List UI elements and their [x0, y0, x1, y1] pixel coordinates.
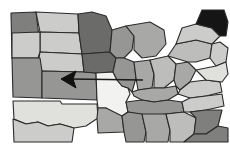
arrow-shaft	[70, 79, 143, 80]
state-wyoming	[12, 32, 40, 58]
state-north-dakota	[36, 12, 79, 33]
state-minnesota	[78, 12, 112, 54]
state-iowa	[82, 52, 116, 73]
state-alabama	[142, 114, 170, 142]
state-south-dakota	[40, 32, 82, 54]
state-nebraska	[38, 52, 84, 72]
choropleth-map	[0, 0, 230, 148]
figure-container: Central and Eastern United States Kansas…	[0, 0, 230, 148]
state-colorado	[12, 58, 42, 98]
